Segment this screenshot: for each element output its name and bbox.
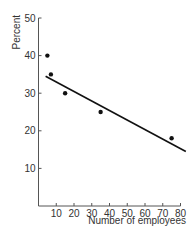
data-series [45, 53, 186, 151]
regression-line [46, 76, 186, 151]
y-tick-label: 30 [24, 88, 36, 99]
tick-marks [39, 18, 181, 206]
data-point [63, 91, 67, 95]
x-tick-label: 20 [68, 208, 80, 219]
y-tick-label: 40 [24, 50, 36, 61]
data-point [45, 53, 49, 57]
x-tick-label: 10 [51, 208, 63, 219]
y-tick-label: 10 [24, 163, 36, 174]
y-axis-label: Percent [11, 15, 22, 50]
data-point [49, 72, 53, 76]
scatter-chart: 10203040506070801020304050 Number of emp… [0, 0, 196, 247]
data-point [169, 136, 173, 140]
y-tick-label: 50 [24, 13, 36, 24]
y-tick-label: 20 [24, 125, 36, 136]
axes [39, 18, 181, 206]
tick-labels: 10203040506070801020304050 [24, 13, 186, 220]
x-axis-label: Number of employees [88, 215, 186, 226]
data-point [98, 110, 102, 114]
